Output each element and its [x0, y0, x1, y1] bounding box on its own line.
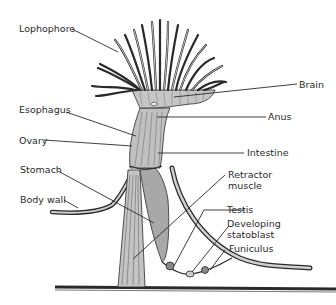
- label-anus: Anus: [268, 111, 292, 122]
- substrate: [55, 287, 336, 292]
- tentacles: [92, 20, 226, 96]
- lophophore-base: [132, 90, 215, 108]
- label-stomach: Stomach: [20, 164, 62, 175]
- label-developing-statoblast-line2: statoblast: [227, 229, 274, 240]
- label-esophagus: Esophagus: [19, 104, 71, 115]
- label-retractor-muscle-line2: muscle: [228, 180, 262, 191]
- label-retractor-muscle-line1: Retractor: [228, 169, 272, 180]
- label-brain: Brain: [299, 79, 324, 90]
- testis-shape: [166, 262, 174, 270]
- label-developing-statoblast-line1: Developing: [227, 218, 281, 229]
- label-ovary: Ovary: [19, 135, 47, 146]
- label-intestine: Intestine: [247, 147, 289, 158]
- label-funiculus: Funiculus: [229, 243, 273, 254]
- stomach: [140, 168, 169, 262]
- label-lophophore: Lophophore: [19, 23, 75, 34]
- label-testis: Testis: [227, 204, 253, 215]
- funiculus: [162, 258, 232, 277]
- statoblast-shape: [186, 271, 194, 277]
- label-body-wall: Body wall: [20, 194, 66, 205]
